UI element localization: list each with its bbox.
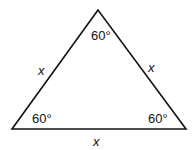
triangle-diagram: 60° 60° 60° x x x <box>0 0 192 150</box>
bottom-side-label: x <box>92 134 100 149</box>
left-side-label: x <box>37 63 45 78</box>
bottom-right-angle-label: 60° <box>148 111 168 126</box>
right-side-label: x <box>147 60 155 75</box>
bottom-left-angle-label: 60° <box>32 111 52 126</box>
top-angle-label: 60° <box>91 28 111 43</box>
